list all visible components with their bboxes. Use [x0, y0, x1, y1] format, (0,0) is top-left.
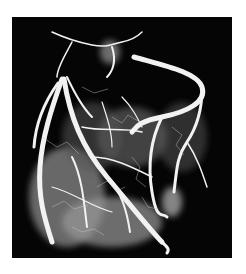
- angiogram-image: [12, 17, 232, 258]
- coronary-vessel-tree: [12, 17, 232, 258]
